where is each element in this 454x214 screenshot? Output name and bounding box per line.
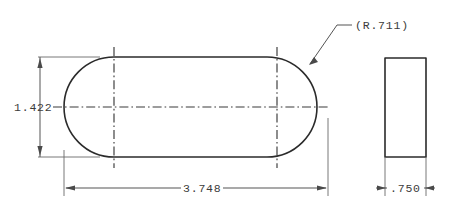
radius-leader-arrow xyxy=(309,57,318,65)
side-view xyxy=(385,58,426,157)
technical-drawing-svg: 1.422 3.748 (R.711) xyxy=(0,0,454,214)
height-arrow-top xyxy=(37,58,42,68)
side-view-rectangle xyxy=(385,58,426,157)
drawing-canvas: 1.422 3.748 (R.711) xyxy=(0,0,454,214)
thickness-dimension: .750 xyxy=(376,157,435,196)
radius-leader-line xyxy=(310,25,352,64)
length-dimension-text: 3.748 xyxy=(183,182,222,195)
thickness-dimension-text: .750 xyxy=(390,182,421,195)
radius-callout-text: (R.711) xyxy=(355,19,409,32)
height-dimension-text: 1.422 xyxy=(14,101,53,114)
length-arrow-right xyxy=(317,185,327,190)
length-arrow-left xyxy=(65,185,75,190)
height-arrow-bottom xyxy=(37,146,42,156)
